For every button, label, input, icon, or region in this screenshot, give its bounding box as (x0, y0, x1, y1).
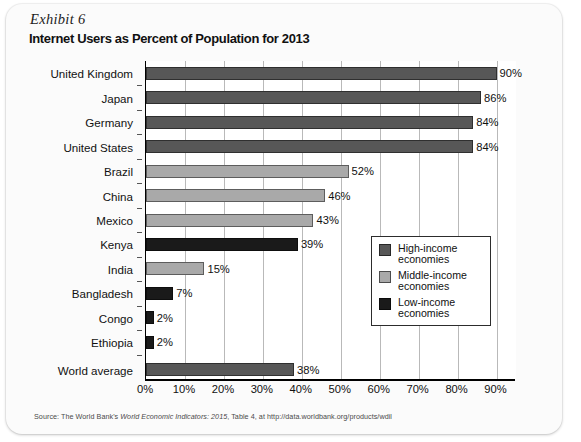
bar-row: 90% (146, 67, 516, 80)
category-tick (137, 257, 142, 258)
source-italic-title: World Economic Indicators: 2015 (120, 412, 227, 421)
category-label-india: India (108, 262, 133, 275)
category-label-world-average: World average (58, 363, 133, 376)
category-tick (137, 134, 142, 135)
x-tick-label-0: 0% (137, 383, 153, 395)
category-label-mexico: Mexico (96, 214, 133, 227)
bar-row: 52% (146, 165, 516, 178)
x-tick-label-40: 40% (290, 383, 312, 395)
source-suffix: , Table 4, at http://data.worldbank.org/… (227, 412, 392, 421)
bar-series: 90%86%84%84%52%46%43%39%15%7%2%2%38% (146, 61, 516, 379)
source-prefix: Source: The World Bank's (34, 412, 120, 421)
category-label-ethiopia: Ethiopia (91, 336, 133, 349)
legend-item-0: High-incomeeconomies (379, 243, 483, 266)
bar-japan (146, 91, 481, 104)
category-label-united-kingdom: United Kingdom (51, 67, 134, 80)
bar-ethiopia (146, 336, 154, 349)
legend-swatch-icon (379, 244, 391, 256)
category-tick (137, 159, 142, 160)
bar-value-label: 84% (473, 141, 498, 153)
bar-united-kingdom (146, 67, 497, 80)
category-label-germany: Germany (85, 116, 133, 129)
value-axis: 0%10%20%30%40%50%60%70%80%90% (145, 383, 515, 399)
bar-value-label: 84% (473, 116, 498, 128)
x-tick-label-80: 80% (445, 383, 467, 395)
chart-legend: High-incomeeconomiesMiddle-incomeeconomi… (371, 236, 491, 326)
category-label-kenya: Kenya (100, 238, 133, 251)
legend-swatch-icon (379, 298, 391, 310)
bar-united-states (146, 140, 473, 153)
legend-label: Middle-incomeeconomies (398, 270, 467, 293)
category-tick (137, 232, 142, 233)
bar-bangladesh (146, 287, 173, 300)
bar-row: 38% (146, 363, 516, 376)
x-tick-label-70: 70% (406, 383, 428, 395)
x-tick-label-20: 20% (212, 383, 234, 395)
legend-label: Low-incomeeconomies (398, 297, 455, 320)
chart-title: Internet Users as Percent of Population … (29, 31, 309, 46)
category-label-japan: Japan (101, 91, 133, 104)
category-tick (137, 208, 142, 209)
bar-row: 46% (146, 189, 516, 202)
category-label-bangladesh: Bangladesh (72, 287, 133, 300)
bar-congo (146, 311, 154, 324)
bar-value-label: 43% (313, 214, 338, 226)
bar-brazil (146, 165, 349, 178)
bar-value-label: 7% (173, 287, 192, 299)
bar-world-average (146, 363, 294, 376)
category-tick (137, 355, 142, 356)
bar-row: 2% (146, 336, 516, 349)
bar-value-label: 39% (298, 238, 323, 250)
category-label-brazil: Brazil (104, 165, 133, 178)
x-tick-label-10: 10% (173, 383, 195, 395)
category-label-congo: Congo (99, 311, 133, 324)
plot-area: 90%86%84%84%52%46%43%39%15%7%2%2%38% (145, 61, 516, 379)
bar-value-label: 2% (154, 336, 173, 348)
bar-value-label: 38% (294, 364, 319, 376)
bar-germany (146, 116, 473, 129)
category-tick (137, 110, 142, 111)
bar-row: 86% (146, 91, 516, 104)
bar-value-label: 2% (154, 312, 173, 324)
bar-india (146, 262, 204, 275)
bar-row: 43% (146, 214, 516, 227)
category-tick (137, 281, 142, 282)
category-tick (137, 306, 142, 307)
category-tick (137, 85, 142, 86)
exhibit-label: Exhibit 6 (30, 11, 85, 28)
x-tick-label-60: 60% (367, 383, 389, 395)
category-tick (137, 330, 142, 331)
x-tick-label-50: 50% (329, 383, 351, 395)
bar-value-label: 86% (481, 92, 506, 104)
bar-row: 84% (146, 140, 516, 153)
category-label-united-states: United States (63, 140, 133, 153)
source-note: Source: The World Bank's World Economic … (34, 412, 392, 421)
bar-kenya (146, 238, 298, 251)
legend-swatch-icon (379, 271, 391, 283)
legend-label: High-incomeeconomies (398, 243, 457, 266)
legend-item-1: Middle-incomeeconomies (379, 270, 483, 293)
exhibit-card: Exhibit 6 Internet Users as Percent of P… (6, 4, 562, 434)
x-tick-label-90: 90% (484, 383, 506, 395)
x-tick-label-30: 30% (251, 383, 273, 395)
category-label-china: China (103, 189, 133, 202)
plot-frame: 90%86%84%84%52%46%43%39%15%7%2%2%38% (145, 61, 515, 379)
bar-value-label: 52% (349, 165, 374, 177)
legend-item-2: Low-incomeeconomies (379, 297, 483, 320)
category-tick (137, 183, 142, 184)
category-axis: United KingdomJapanGermanyUnited StatesB… (6, 61, 142, 379)
bar-china (146, 189, 325, 202)
value-axis-line (145, 379, 515, 381)
bar-value-label: 90% (497, 67, 522, 79)
bar-mexico (146, 214, 313, 227)
bar-row: 84% (146, 116, 516, 129)
bar-value-label: 15% (204, 263, 229, 275)
bar-value-label: 46% (325, 190, 350, 202)
